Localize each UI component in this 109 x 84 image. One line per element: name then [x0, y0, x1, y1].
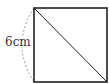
- diagonal-line: [34, 8, 107, 82]
- side-length-label: 6cm: [4, 36, 32, 49]
